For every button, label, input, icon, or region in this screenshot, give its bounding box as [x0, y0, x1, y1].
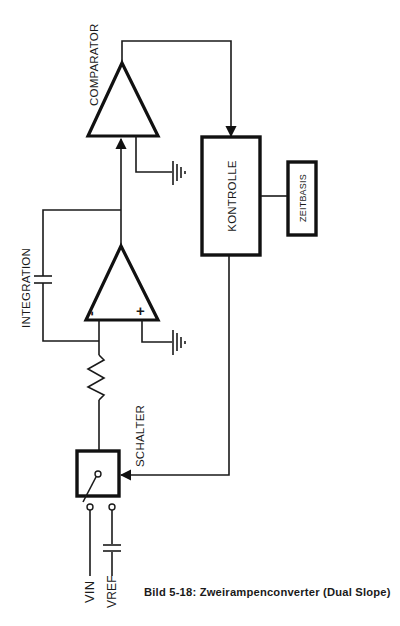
timebase-label: ZEITBASIS	[298, 174, 308, 222]
vin-label: VIN	[82, 581, 97, 603]
terminal-vref-icon	[109, 504, 115, 510]
schematic: COMPARATOR INTEGRATION - +	[0, 0, 400, 626]
switch-label: SCHALTER	[134, 405, 146, 467]
terminal-vin-icon	[87, 504, 93, 510]
wire-integrator-ground	[142, 320, 172, 342]
vref-label: VREF	[105, 575, 119, 608]
integration-label: INTEGRATION	[20, 248, 32, 328]
wire-comparator-to-control	[122, 41, 231, 136]
wire-feedback-top	[43, 210, 121, 276]
integrator-minus-sign: -	[82, 311, 99, 316]
switch-pivot-icon	[95, 471, 101, 477]
comparator-label: COMPARATOR	[88, 23, 100, 106]
integrator-symbol	[86, 246, 158, 320]
figure-caption: Bild 5-18: Zweirampenconverter (Dual Slo…	[144, 586, 391, 598]
ground-icon	[173, 161, 185, 185]
ground-icon	[173, 330, 185, 355]
integration-capacitor-icon	[34, 276, 52, 283]
integrator-plus-sign: +	[136, 302, 145, 319]
resistor-icon	[88, 355, 104, 400]
wire-comparator-ground	[136, 136, 172, 172]
control-label: KONTROLLE	[226, 160, 238, 232]
vref-capacitor-icon	[103, 545, 121, 551]
dual-slope-diagram: COMPARATOR INTEGRATION - +	[0, 0, 400, 626]
